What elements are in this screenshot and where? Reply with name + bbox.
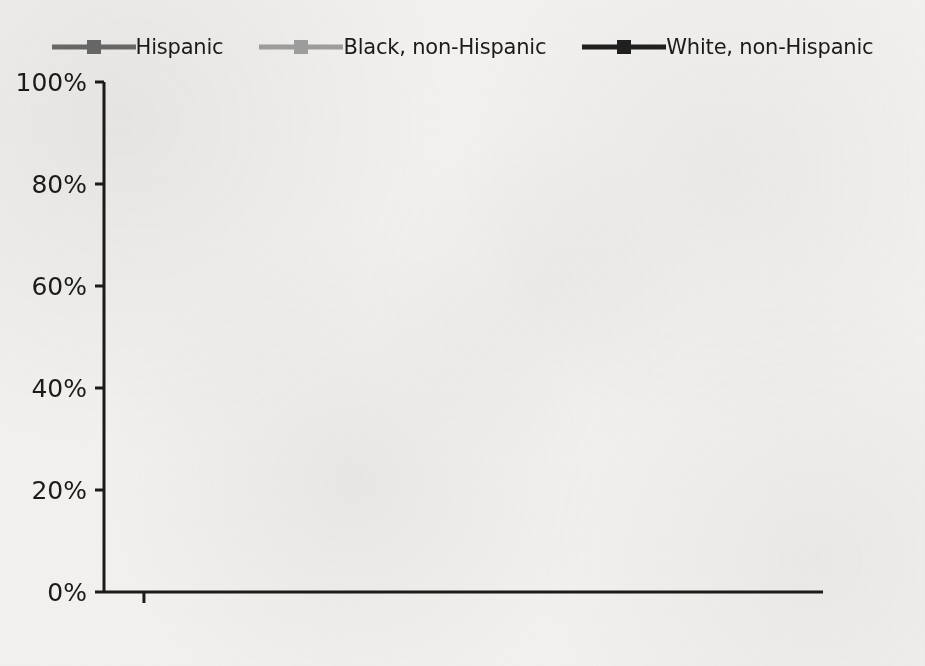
y-tick-label: 60% (31, 272, 87, 301)
y-tick-label: 20% (31, 476, 87, 505)
y-tick-label: 100% (16, 68, 87, 97)
y-tick-label: 40% (31, 374, 87, 403)
chart-page: Hispanic Black, non-Hispanic White, non-… (0, 0, 925, 666)
plot-area: 0%20%40%60%80%100% (0, 0, 925, 666)
legend-swatch-white-non-hispanic (582, 38, 666, 56)
legend-marker-white-non-hispanic (617, 40, 631, 54)
legend-marker-hispanic (87, 40, 101, 54)
legend-label-hispanic: Hispanic (136, 35, 224, 59)
legend-swatch-black-non-hispanic (259, 38, 343, 56)
legend-entry-hispanic: Hispanic (52, 35, 224, 59)
legend-label-white-non-hispanic: White, non-Hispanic (666, 35, 873, 59)
legend-entry-black-non-hispanic: Black, non-Hispanic (259, 35, 546, 59)
chart-legend: Hispanic Black, non-Hispanic White, non-… (0, 30, 925, 64)
y-tick-label: 80% (31, 170, 87, 199)
chart-svg: 0%20%40%60%80%100% (0, 0, 925, 666)
legend-entry-white-non-hispanic: White, non-Hispanic (582, 35, 873, 59)
legend-swatch-hispanic (52, 38, 136, 56)
y-tick-label: 0% (47, 578, 87, 607)
legend-marker-black-non-hispanic (294, 40, 308, 54)
legend-label-black-non-hispanic: Black, non-Hispanic (343, 35, 546, 59)
